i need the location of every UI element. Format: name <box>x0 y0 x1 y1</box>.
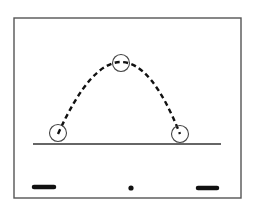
center-dot <box>128 185 133 190</box>
trajectory-diagram <box>0 0 256 213</box>
markers-group <box>34 185 217 190</box>
trajectory-path <box>58 62 180 134</box>
frame-border <box>14 18 241 198</box>
balls-group <box>50 55 189 143</box>
